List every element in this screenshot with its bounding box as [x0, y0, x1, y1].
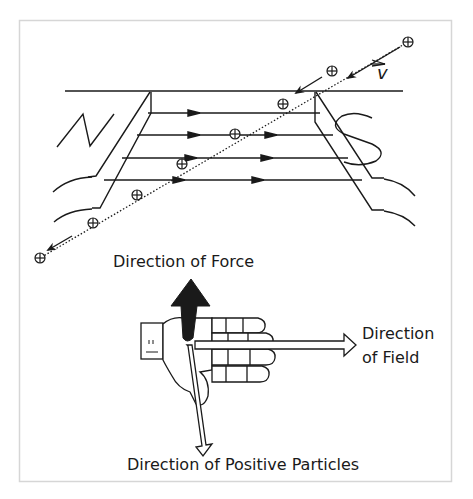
magnetic-field-lines: [104, 110, 362, 183]
force-direction-label: Direction of Force: [113, 252, 254, 271]
particle-icon: [403, 37, 413, 47]
right-hand-icon: [141, 318, 275, 405]
particle-icon: [327, 66, 337, 76]
diagram-frame: [20, 21, 452, 482]
north-pole-magnet: [53, 92, 151, 222]
particle-icon: [278, 99, 288, 109]
field-direction-label-line1: Direction: [362, 324, 434, 343]
north-pole-label: [57, 114, 114, 147]
positive-particles: [35, 37, 413, 263]
particle-icon: [88, 218, 98, 228]
particle-icon: [35, 253, 45, 263]
diagram-canvas: v Direction of Force: [0, 0, 473, 499]
particle-icon: [230, 129, 240, 139]
particle-icon: [132, 190, 142, 200]
south-pole-magnet: [315, 92, 415, 226]
field-direction-label-line2: of Field: [362, 348, 419, 367]
particle-icon: [177, 159, 187, 169]
velocity-label: v: [371, 60, 388, 83]
particle-direction-label: Direction of Positive Particles: [127, 455, 359, 474]
